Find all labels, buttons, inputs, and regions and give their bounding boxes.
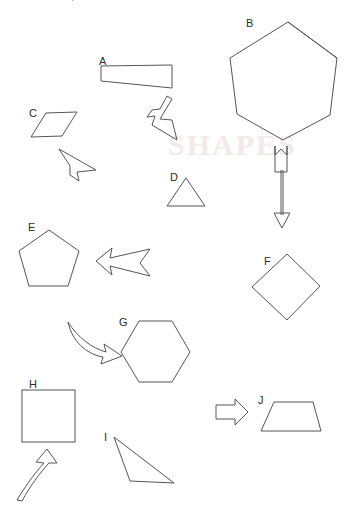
curved-arrow-right-icon[interactable] (68, 322, 122, 364)
shape-g-hexagon[interactable] (121, 321, 190, 382)
block-arrow-right-icon[interactable] (216, 399, 248, 425)
shape-label-g: G (119, 317, 128, 328)
shape-h-square[interactable] (22, 390, 75, 442)
shape-label-e: E (28, 222, 35, 233)
shape-label-i: I (104, 432, 107, 443)
bent-arrow-up-right-icon[interactable] (147, 96, 177, 140)
shape-label-f: F (264, 256, 271, 267)
arrow-down-head-icon[interactable] (274, 213, 290, 228)
shape-e-pentagon[interactable] (19, 230, 79, 286)
shape-label-c: C (29, 108, 37, 119)
arrow-left-feathered-icon[interactable] (96, 248, 150, 276)
shape-j-trapezoid[interactable] (261, 402, 321, 431)
shape-b-heptagon[interactable] (230, 22, 337, 140)
shape-a-quadrilateral[interactable] (101, 65, 172, 88)
shape-label-a: A (99, 56, 106, 67)
shape-label-j: J (258, 395, 264, 406)
cursor-arrow-up-left-icon[interactable] (59, 149, 96, 181)
curved-arrow-up-icon[interactable] (17, 449, 57, 501)
arrow-down-fletched-icon[interactable] (275, 146, 287, 172)
shape-label-d: D (170, 172, 178, 183)
worksheet-page: Name the shapes and cut one ball SHAPES (0, 0, 361, 513)
shapes-canvas (0, 0, 361, 513)
shape-label-h: H (29, 379, 37, 390)
shape-i-triangle[interactable] (114, 437, 174, 483)
shape-c-parallelogram[interactable] (31, 112, 77, 137)
shape-f-diamond[interactable] (252, 254, 320, 320)
shape-b-heptagon-extra-edge (288, 22, 337, 58)
shape-label-b: B (246, 18, 253, 29)
